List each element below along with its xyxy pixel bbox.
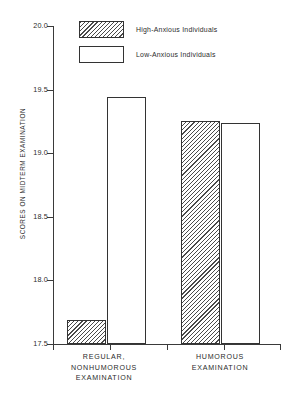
x-group-label-line: EXAMINATION: [46, 373, 162, 384]
y-tick-label: 17.5: [22, 340, 48, 347]
x-group-label-humorous: HUMOROUS EXAMINATION: [164, 352, 276, 373]
bar-high-anxious-regular: [67, 320, 106, 344]
y-tick-label: 20.0: [22, 22, 48, 29]
plot-area: [53, 26, 281, 344]
x-tick-mark: [53, 344, 54, 350]
x-tick-mark: [280, 344, 281, 350]
x-group-label-line: REGULAR,: [46, 352, 162, 363]
x-tick-mark: [167, 344, 168, 350]
x-group-label-line: NONHUMOROUS: [46, 363, 162, 374]
x-tick-mark: [110, 344, 111, 350]
bar-high-anxious-humorous: [181, 121, 220, 344]
x-group-label-line: EXAMINATION: [164, 363, 276, 374]
legend: High-Anxious Individuals Low-Anxious Ind…: [79, 20, 217, 70]
bar-low-anxious-humorous: [221, 123, 260, 344]
bar-low-anxious-regular: [107, 97, 146, 344]
x-group-label-regular: REGULAR, NONHUMOROUS EXAMINATION: [46, 352, 162, 384]
x-group-label-line: HUMOROUS: [164, 352, 276, 363]
y-axis-tick-labels: 20.0 19.5 19.0 18.5 18.0 17.5: [22, 0, 48, 399]
legend-label: High-Anxious Individuals: [136, 26, 217, 33]
y-tick-label: 18.5: [22, 213, 48, 220]
bar-chart: SCORES ON MIDTERM EXAMINATION 20.0 19.5 …: [0, 0, 288, 399]
x-tick-mark: [224, 344, 225, 350]
legend-swatch-white-icon: [79, 46, 124, 63]
legend-label: Low-Anxious Individuals: [136, 51, 216, 58]
legend-item-high-anxious: High-Anxious Individuals: [79, 20, 217, 39]
legend-item-low-anxious: Low-Anxious Individuals: [79, 45, 217, 64]
y-tick-label: 19.5: [22, 86, 48, 93]
y-tick-label: 18.0: [22, 276, 48, 283]
legend-swatch-hatched-icon: [79, 21, 124, 38]
y-tick-label: 19.0: [22, 149, 48, 156]
